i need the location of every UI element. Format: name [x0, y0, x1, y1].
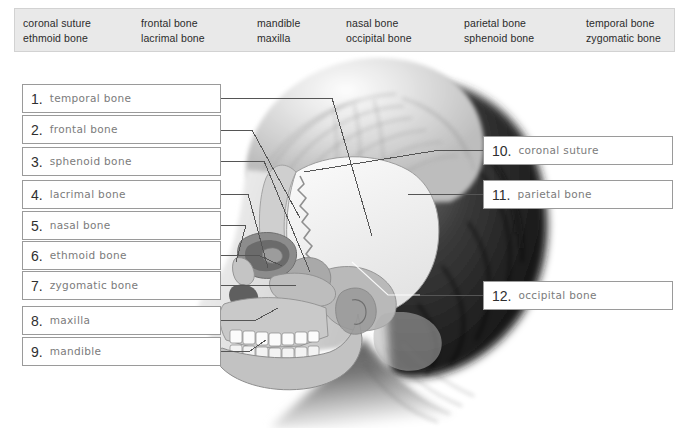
word-bank-term: occipital bone [346, 31, 412, 46]
word-bank-column-5: parietal bonesphenoid bone [464, 16, 534, 46]
answer-box-8[interactable]: 8.maxilla [22, 306, 221, 335]
answer-number: 6. [31, 249, 43, 263]
answer-box-10[interactable]: 10.coronal suture [483, 136, 673, 165]
answer-number: 1. [31, 92, 43, 106]
answer-number: 5. [31, 219, 43, 233]
answer-box-12[interactable]: 12.occipital bone [483, 281, 673, 310]
answer-text[interactable]: mandible [50, 346, 102, 357]
word-bank-column-1: coronal sutureethmoid bone [23, 16, 91, 46]
word-bank-term: zygomatic bone [586, 31, 661, 46]
answer-box-7[interactable]: 7.zygomatic bone [22, 271, 221, 300]
answer-number: 4. [31, 188, 43, 202]
answer-text[interactable]: temporal bone [50, 93, 132, 104]
answer-text[interactable]: nasal bone [50, 220, 111, 231]
answer-number: 12. [492, 289, 511, 303]
answer-box-3[interactable]: 3.sphenoid bone [22, 147, 221, 176]
answer-box-9[interactable]: 9.mandible [22, 337, 221, 366]
answer-box-1[interactable]: 1.temporal bone [22, 84, 221, 113]
word-bank-term: sphenoid bone [464, 31, 534, 46]
word-bank-term: temporal bone [586, 16, 661, 31]
answer-number: 7. [31, 279, 43, 293]
answer-text[interactable]: coronal suture [518, 145, 598, 156]
answer-number: 8. [31, 314, 43, 328]
answer-number: 3. [31, 155, 43, 169]
answer-box-2[interactable]: 2.frontal bone [22, 115, 221, 144]
answer-box-4[interactable]: 4.lacrimal bone [22, 180, 221, 209]
word-bank-term: lacrimal bone [141, 31, 205, 46]
answer-text[interactable]: frontal bone [50, 124, 118, 135]
word-bank-term: mandible [257, 16, 300, 31]
word-bank-term: maxilla [257, 31, 300, 46]
answer-text[interactable]: occipital bone [518, 290, 596, 301]
word-bank-term: coronal suture [23, 16, 91, 31]
word-bank-column-4: nasal boneoccipital bone [346, 16, 412, 46]
answer-number: 9. [31, 345, 43, 359]
word-bank-term: frontal bone [141, 16, 205, 31]
word-bank-term: nasal bone [346, 16, 412, 31]
word-bank-term: parietal bone [464, 16, 534, 31]
answer-number: 10. [492, 144, 511, 158]
answer-box-6[interactable]: 6.ethmoid bone [22, 241, 221, 270]
word-bank: coronal sutureethmoid bonefrontal bonela… [14, 8, 675, 52]
word-bank-column-6: temporal bonezygomatic bone [586, 16, 661, 46]
answer-text[interactable]: parietal bone [517, 189, 591, 200]
word-bank-term: ethmoid bone [23, 31, 91, 46]
answer-text[interactable]: sphenoid bone [50, 156, 132, 167]
answer-box-11[interactable]: 11.parietal bone [483, 180, 673, 209]
answer-box-5[interactable]: 5.nasal bone [22, 211, 221, 240]
answer-number: 2. [31, 123, 43, 137]
answer-text[interactable]: ethmoid bone [50, 250, 127, 261]
word-bank-column-3: mandiblemaxilla [257, 16, 300, 46]
answer-number: 11. [492, 188, 510, 202]
word-bank-column-2: frontal bonelacrimal bone [141, 16, 205, 46]
answer-text[interactable]: maxilla [50, 315, 91, 326]
answer-text[interactable]: lacrimal bone [50, 189, 126, 200]
answer-text[interactable]: zygomatic bone [50, 280, 139, 291]
